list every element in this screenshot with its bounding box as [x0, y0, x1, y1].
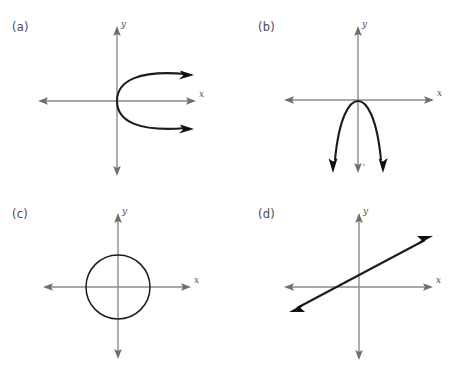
panel-d-curve-line	[289, 236, 433, 312]
panel-a-curve-parabola-right	[117, 71, 194, 134]
panel-a: (a) x y	[0, 0, 229, 190]
parabola-right-arrow-icon	[379, 158, 388, 173]
panel-d: (d) x y	[229, 189, 458, 379]
panel-d-axes: x y	[284, 206, 441, 360]
parabola-lower-branch	[117, 101, 186, 129]
x-axis-label: x	[437, 88, 442, 98]
panel-b-axes: x y	[284, 19, 442, 173]
x-axis-label: x	[199, 89, 204, 99]
parabola-upper-branch	[117, 73, 186, 101]
origin-tick-mark	[363, 164, 365, 166]
y-axis-label: y	[362, 206, 369, 216]
x-axis-label: x	[436, 275, 441, 285]
panel-c: (c) x y	[0, 189, 229, 379]
panel-c-graph: x y	[0, 189, 229, 379]
panel-c-axes: x y	[43, 206, 199, 359]
panel-d-graph: x y	[229, 189, 458, 379]
y-axis-label: y	[120, 19, 127, 29]
figure-root: (a) x y (b)	[0, 0, 458, 379]
x-axis-label: x	[194, 275, 199, 285]
y-axis-label: y	[121, 206, 128, 216]
parabola-left-arrow-icon	[329, 158, 338, 173]
parabola-upper-arrow-icon	[179, 71, 194, 80]
line-arrow-upper-right-icon	[417, 236, 433, 245]
parabola-right-branch	[358, 101, 381, 160]
panel-b-graph: x y	[229, 0, 458, 190]
panel-a-axes: x y	[38, 19, 204, 176]
y-axis-label: y	[361, 19, 368, 29]
parabola-left-branch	[335, 101, 358, 160]
panel-a-graph: x y	[0, 0, 229, 190]
line-shape	[297, 240, 425, 308]
panel-b: (b) x y	[229, 0, 458, 190]
line-arrow-lower-left-icon	[289, 303, 305, 312]
